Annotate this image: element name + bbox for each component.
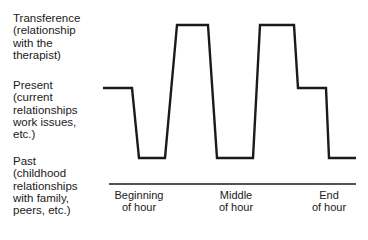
x-tick-middle: Middle of hour	[210, 189, 262, 213]
x-tick-beginning: Beginning of hour	[108, 189, 170, 213]
focus-series-line	[103, 25, 356, 158]
x-tick-end: End of hour	[303, 189, 355, 213]
